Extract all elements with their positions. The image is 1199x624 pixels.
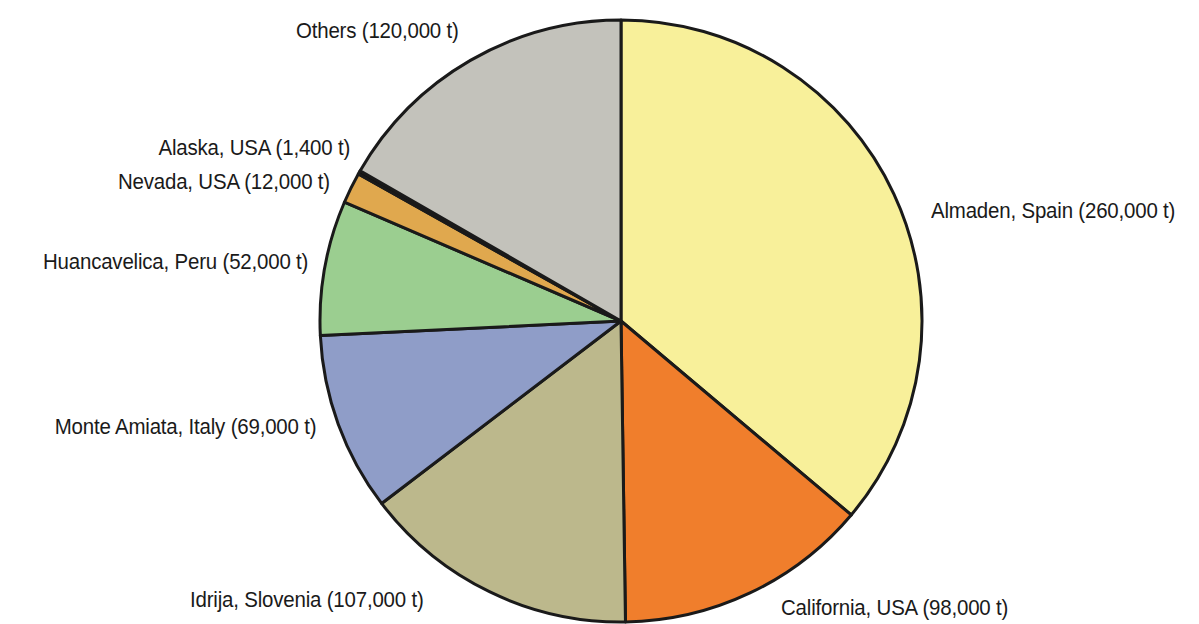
pie-label-monte-amiata-italy: Monte Amiata, Italy (69,000 t) xyxy=(54,415,316,439)
pie-label-nevada-usa: Nevada, USA (12,000 t) xyxy=(118,170,330,194)
pie-label-california-usa: California, USA (98,000 t) xyxy=(781,596,1008,620)
pie-chart-canvas xyxy=(0,0,1199,624)
pie-label-almaden-spain: Almaden, Spain (260,000 t) xyxy=(931,199,1175,223)
pie-slice-group xyxy=(320,20,922,622)
pie-chart-figure: Others (120,000 t) Alaska, USA (1,400 t)… xyxy=(0,0,1199,624)
pie-label-others: Others (120,000 t) xyxy=(296,19,459,43)
pie-label-alaska-usa: Alaska, USA (1,400 t) xyxy=(158,136,350,160)
pie-label-huancavelica-peru: Huancavelica, Peru (52,000 t) xyxy=(43,250,308,274)
pie-label-idrija-slovenia: Idrija, Slovenia (107,000 t) xyxy=(190,588,424,612)
